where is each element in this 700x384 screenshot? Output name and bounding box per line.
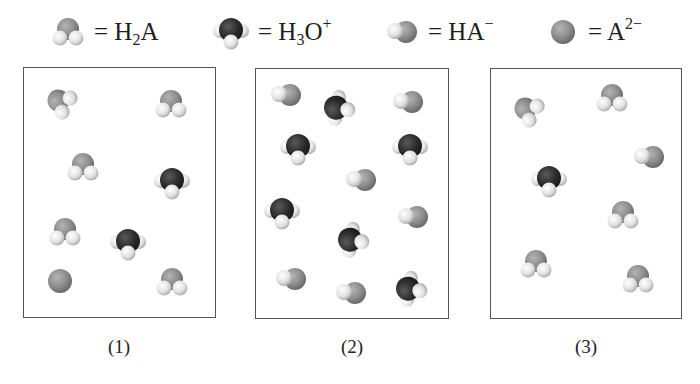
legend-label-hydronium: = H3O+ — [258, 14, 332, 50]
a2-minus-molecule-icon — [546, 14, 580, 50]
legend-hydronium: = H3O+ — [212, 14, 332, 50]
legend-h2a: = H2A — [50, 14, 158, 50]
legend-label-ha-minus: = HA− — [428, 14, 494, 50]
h2a-molecule-icon — [50, 14, 86, 50]
panel-3-label: (3) — [556, 336, 616, 358]
legend-label-h2a: = H2A — [94, 14, 158, 50]
panel-1-label: (1) — [89, 336, 149, 358]
hydronium-molecule-icon — [212, 14, 250, 50]
legend-ha-minus: = HA− — [384, 14, 494, 50]
ha-minus-molecule-icon — [384, 14, 420, 50]
legend-a2-minus: = A2− — [546, 14, 642, 50]
panel-2-label: (2) — [322, 336, 382, 358]
legend-label-a2-minus: = A2− — [588, 14, 642, 50]
